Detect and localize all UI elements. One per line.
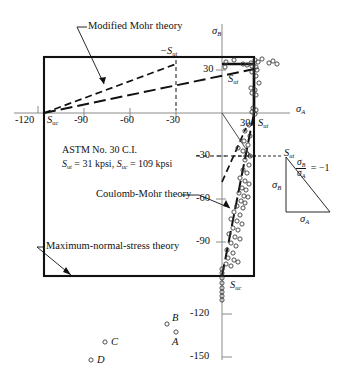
y-tick-minus-120: -120 — [190, 308, 209, 319]
x-tick-minus-60: -60 — [120, 115, 134, 126]
x-tick-minus-30: -30 — [166, 115, 180, 126]
x-tick-30: 30 — [240, 118, 251, 129]
annotation-max-normal-stress: Maximum-normal-stress theory — [46, 241, 179, 252]
y-tick-minus-90: -90 — [196, 236, 210, 247]
material-note-line-1: ASTM No. 30 C.I. — [62, 145, 137, 155]
data-point-label-b: B — [172, 313, 178, 324]
data-point-label-d: D — [97, 355, 105, 366]
suc-y-axis-marker: Suc — [230, 280, 241, 291]
x-tick-minus-120: -120 — [15, 115, 34, 126]
data-point-c — [103, 340, 107, 344]
y-tick-minus-30: -30 — [196, 150, 210, 161]
neg-sut-marker: −Sut — [160, 46, 177, 57]
sut-x-axis-marker: Sut — [258, 118, 268, 129]
leader-modified-mohr — [77, 27, 106, 84]
x-tick-minus-90: -90 — [74, 115, 88, 126]
failure-theory-chart: σA σB -120 -90 -60 -30 30 30 -30 -60 -90… — [0, 0, 345, 374]
sut-y-axis-marker: Sut — [228, 74, 238, 85]
y-tick-30: 30 — [203, 64, 214, 75]
data-point-a — [174, 330, 178, 334]
material-note-line-2: Sut = 31 kpsi, Suc = 109 kpsi — [62, 159, 172, 170]
y-tick-minus-60: -60 — [196, 193, 210, 204]
annotation-modified-mohr: Modified Mohr theory — [88, 21, 183, 32]
data-point-b — [165, 322, 169, 326]
y-axis-label: σB — [212, 26, 221, 37]
data-point-label-c: C — [111, 337, 118, 348]
inset-sigma-a-label: σA — [300, 214, 309, 225]
annotation-coulomb-mohr: Coulomb-Mohr theory — [96, 189, 191, 200]
y-tick-minus-150: -150 — [190, 351, 209, 362]
fracture-data-points — [89, 57, 279, 362]
suc-x-axis-marker: Suc — [47, 115, 58, 126]
x-axis-label: σA — [296, 104, 305, 115]
load-line-ratio-annotation: σB σA = −1 — [296, 158, 330, 179]
sut-q4-marker: Sut — [284, 148, 294, 159]
data-point-label-a: A — [172, 337, 178, 348]
inset-sigma-b-label: σB — [272, 180, 281, 191]
data-point-d — [89, 358, 93, 362]
